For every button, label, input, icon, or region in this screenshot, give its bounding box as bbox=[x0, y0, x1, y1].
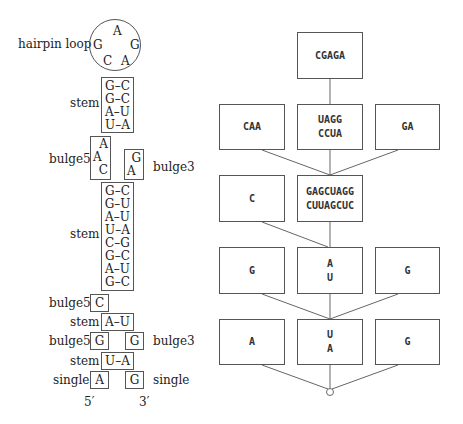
node-text: C bbox=[249, 192, 255, 206]
tree-node-stem: GAGCUAGG CUUAGCUC bbox=[297, 175, 363, 222]
node-text: CCUA bbox=[318, 127, 342, 141]
node-text: A bbox=[327, 257, 333, 271]
tree-node-bulge5: CAA bbox=[219, 104, 285, 150]
node-text: G bbox=[404, 335, 410, 349]
tree-node-stem: A U bbox=[297, 247, 363, 294]
node-text: A bbox=[327, 342, 333, 356]
tree-node-bulge5: G bbox=[219, 247, 285, 294]
node-text: CUUAGCUC bbox=[306, 199, 354, 213]
tree-node-root: CGAGA bbox=[297, 32, 363, 79]
tree-node-bulge5: C bbox=[219, 175, 285, 222]
terminal-node-icon bbox=[327, 389, 334, 396]
node-text: G bbox=[249, 264, 255, 278]
node-text: CAA bbox=[243, 120, 261, 134]
tree-node-bulge3: GA bbox=[375, 104, 440, 150]
node-text: G bbox=[404, 264, 410, 278]
tree-node-stem: U A bbox=[297, 319, 363, 365]
node-text: GAGCUAGG bbox=[306, 185, 354, 199]
tree-node-bulge3: G bbox=[375, 247, 440, 294]
node-text: CGAGA bbox=[315, 49, 345, 63]
tree-node-single: G bbox=[375, 319, 440, 365]
tree-node-single: A bbox=[219, 319, 285, 365]
node-text: A bbox=[249, 335, 255, 349]
node-text: UAGG bbox=[318, 113, 342, 127]
node-text: U bbox=[327, 271, 333, 285]
node-text: GA bbox=[401, 120, 413, 134]
tree-node-stem: UAGG CCUA bbox=[297, 104, 363, 150]
node-text: U bbox=[327, 328, 333, 342]
